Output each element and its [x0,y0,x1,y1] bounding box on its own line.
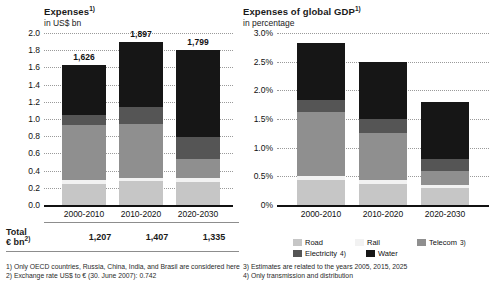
legend-label-water: Water [378,249,398,258]
legend-label-road: Road [305,238,323,247]
bar-2020-2030[interactable]: 2020-2030 [421,102,469,205]
ytick-label-9: 0.2 [28,184,40,193]
gridline-3-0pct [277,33,489,34]
bar-2000-2010[interactable]: 2000-2010 [297,43,345,205]
footnote-1: 1) Only OECD countries, Russia, China, I… [6,262,240,271]
bar-segment-road [359,184,407,205]
legend-item-telecom[interactable]: Telecom3) [417,238,466,247]
left-chart-panel: Expenses1) in US$ bn 2.0 1.8 1.6 1.4 1.2… [0,0,249,283]
bar-segment-telecom [297,112,345,176]
ytick-label-2: 2.0% [254,86,273,95]
left-chart-subtitle: in US$ bn [44,18,81,28]
bar-segment-electricity [119,107,163,124]
ytick-label-5: 0.5% [254,172,273,181]
bar-segment-electricity [359,119,407,133]
bar-segment-telecom [176,159,220,179]
ytick-label-1: 1.8 [28,46,40,55]
bar-segment-rail [62,180,106,183]
x-axis-line [44,205,233,207]
ytick-label-3: 1.4 [28,80,40,89]
ytick-label-4: 1.0% [254,143,273,152]
ytick-label-0: 2.0 [28,29,40,38]
bar-segment-road [176,182,220,205]
bar-segment-water [119,42,163,107]
xaxis-label-2020-2030: 2020-2030 [178,209,219,219]
left-plot-area: 2.0 1.8 1.6 1.4 1.2 1.0 0.8 0.6 0.4 0.2 … [44,33,233,205]
xaxis-label-2000-2010: 2000-2010 [64,209,105,219]
bar-segment-water [359,62,407,119]
x-axis-line [277,205,489,207]
legend-swatch-telecom-icon [417,239,426,246]
xaxis-label-2010-2020: 2010-2020 [121,209,162,219]
bar-2000-2010[interactable]: 1,626 2000-2010 [62,65,106,205]
bar-total-label: 1,626 [73,52,94,62]
ytick-label-0: 3.0% [254,29,273,38]
infographic-root: Expenses1) in US$ bn 2.0 1.8 1.6 1.4 1.2… [0,0,499,283]
legend-item-rail[interactable]: Rail [355,238,380,247]
bar-segment-electricity [421,159,469,171]
right-chart-panel: Expenses of global GDP1) in percentage 3… [249,0,499,283]
footnote-2: 2) Exchange rate US$ to € (30. June 2007… [6,271,156,280]
ytick-label-3: 1.5% [254,115,273,124]
totals-table-top-rule [44,222,239,223]
legend-item-road[interactable]: Road [293,238,323,247]
xaxis-label-2010-2020: 2010-2020 [363,209,404,219]
ytick-label-4: 1.2 [28,98,40,107]
bar-segment-road [421,188,469,205]
bar-segment-rail [176,178,220,181]
total-value-2000-2010: 1,207 [89,232,112,242]
left-chart-title-superscript: 1) [89,5,95,12]
totals-table-bottom-rule [6,251,239,252]
right-chart-subtitle: in percentage [243,18,295,28]
legend-label-rail: Rail [367,238,380,247]
bar-segment-telecom [421,171,469,185]
bar-segment-electricity [62,115,106,125]
totals-row-label: Total € bn2) [6,227,30,247]
bar-segment-water [297,43,345,100]
footnote-3: 3) Estimates are related to the years 20… [243,262,407,271]
ytick-label-8: 0.4 [28,166,40,175]
ytick-label-10: 0.0 [28,201,40,210]
bar-segment-water [62,65,106,115]
xaxis-label-2000-2010: 2000-2010 [301,209,342,219]
bar-segment-water [176,50,220,137]
left-chart-title: Expenses1) [44,6,95,17]
legend-item-electricity[interactable]: Electricity4) [293,249,346,258]
right-chart-title-superscript: 1) [355,5,361,12]
bar-segment-road [62,184,106,206]
legend-item-water[interactable]: Water [366,249,398,258]
bar-total-label: 1,799 [187,37,208,47]
ytick-label-1: 2.5% [254,57,273,66]
bar-segment-telecom [62,125,106,180]
bar-segment-rail [297,176,345,180]
bar-total-label: 1,897 [130,29,151,39]
bar-segment-rail [359,180,407,184]
right-chart-title: Expenses of global GDP1) [243,6,361,17]
legend-swatch-rail-icon [355,239,364,246]
right-chart-title-text: Expenses of global GDP [243,6,355,17]
bar-2010-2020[interactable]: 2010-2020 [359,62,407,205]
footnote-4: 4) Only transmission and distribution [243,271,353,280]
totals-row-label-superscript: 2) [25,235,31,242]
totals-table: Total € bn2) 1,207 1,407 1,335 [6,222,239,252]
bar-segment-telecom [359,133,407,180]
bar-segment-telecom [119,124,163,177]
legend-label-telecom: Telecom [429,238,457,247]
totals-row-label-line2: € bn2) [6,237,30,247]
bar-2020-2030[interactable]: 1,799 2020-2030 [176,50,220,205]
bar-segment-rail [119,178,163,181]
ytick-label-6: 0.8 [28,132,40,141]
bar-segment-electricity [176,137,220,159]
total-value-2010-2020: 1,407 [146,232,169,242]
bar-2010-2020[interactable]: 1,897 2010-2020 [119,42,163,205]
ytick-label-6: 0% [261,201,273,210]
bar-segment-rail [421,185,469,188]
xaxis-label-2020-2030: 2020-2030 [425,209,466,219]
totals-row-label-currency: € bn [6,237,25,247]
legend-swatch-electricity-icon [293,250,302,257]
right-plot-area: 3.0% 2.5% 2.0% 1.5% 1.0% 0.5% 0% 2000-20… [277,33,489,205]
total-value-2020-2030: 1,335 [203,232,226,242]
ytick-label-5: 1.0 [28,115,40,124]
legend-label-electricity: Electricity [305,249,337,258]
bar-segment-electricity [297,100,345,112]
